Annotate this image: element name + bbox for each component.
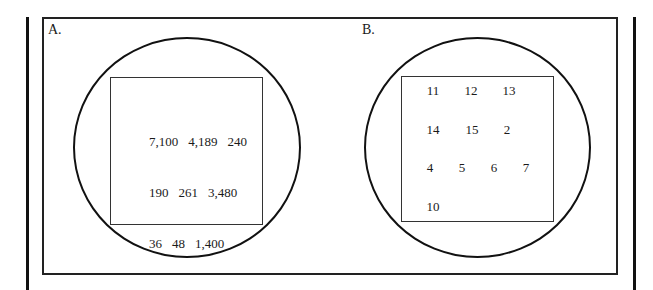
number: 6: [491, 161, 498, 174]
number: 14: [427, 123, 440, 136]
number: 4,189: [188, 134, 217, 149]
number: 2: [504, 123, 511, 136]
number-row: 7,1004,189240: [136, 116, 257, 133]
number: 261: [179, 185, 199, 200]
number-row: 36481,400: [136, 218, 257, 235]
number: 240: [228, 134, 248, 149]
number: 5: [459, 161, 466, 174]
panel-a-label: A.: [48, 23, 62, 37]
number: 7,100: [149, 134, 178, 149]
number: 12: [465, 84, 478, 97]
number: 10: [427, 200, 440, 213]
panel-b-label: B.: [362, 23, 375, 37]
number: 7: [523, 161, 530, 174]
number-row: 2,19845099: [136, 269, 257, 286]
number: 11: [427, 84, 440, 97]
number: 4: [427, 161, 434, 174]
right-border-rule: [633, 17, 636, 290]
number: 48: [172, 236, 185, 251]
number: 36: [149, 236, 162, 251]
number-row: 1902613,480: [136, 167, 257, 184]
panel-a-number-list: 7,1004,189240 1902613,480 36481,400 2,19…: [136, 82, 257, 290]
panel-b-box: [401, 76, 554, 222]
number: 13: [503, 84, 516, 97]
number: 3,480: [208, 185, 237, 200]
left-border-rule: [26, 17, 29, 290]
number: 1,400: [195, 236, 224, 251]
number: 15: [466, 123, 479, 136]
number: 190: [149, 185, 169, 200]
